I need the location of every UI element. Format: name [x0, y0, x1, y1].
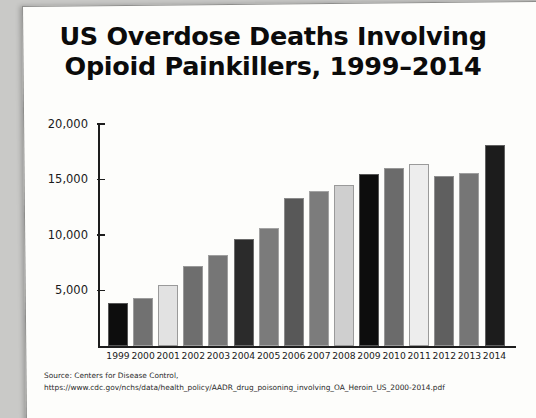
y-tick-20000 — [97, 123, 105, 125]
bar-1999 — [108, 303, 128, 346]
bar-2000 — [133, 298, 153, 346]
bar-2010 — [384, 168, 404, 346]
bar-2006 — [284, 198, 304, 346]
y-tick-label-20000: 20,000 — [10, 117, 88, 131]
bar-2011 — [409, 164, 429, 346]
plot-area — [98, 124, 516, 346]
bar-2014 — [485, 145, 505, 346]
bar-2013 — [459, 173, 479, 346]
y-axis-labels: 5,00010,00015,00020,000 — [10, 124, 88, 346]
x-tick-label-2014: 2014 — [478, 350, 512, 361]
chart-title-line-1: US Overdose Deaths Involving — [59, 21, 486, 51]
bar-2004 — [234, 239, 254, 346]
y-tick-15000 — [97, 179, 105, 181]
y-tick-5000 — [97, 290, 105, 292]
y-tick-label-15000: 15,000 — [10, 172, 88, 186]
bar-series — [108, 124, 512, 346]
y-tick-label-10000: 10,000 — [10, 228, 88, 242]
x-axis-labels: 1999200020012002200320042005200620072008… — [108, 350, 512, 364]
chart-title-line-2: Opioid Painkillers, 1999–2014 — [48, 52, 498, 82]
source-note: Source: Centers for Disease Control, htt… — [44, 370, 494, 394]
bar-2001 — [158, 285, 178, 346]
chart-title: US Overdose Deaths Involving Opioid Pain… — [48, 22, 498, 81]
bar-2005 — [259, 228, 279, 346]
source-url: https://www.cdc.gov/nchs/data/health_pol… — [44, 382, 494, 394]
bar-2007 — [309, 191, 329, 346]
bar-2008 — [334, 185, 354, 346]
bar-2002 — [183, 266, 203, 346]
x-axis-line — [98, 346, 516, 348]
source-label: Source: Centers for Disease Control, — [44, 371, 178, 380]
y-tick-10000 — [97, 234, 105, 236]
chart-figure: US Overdose Deaths Involving Opioid Pain… — [0, 0, 536, 418]
y-tick-label-5000: 5,000 — [10, 283, 88, 297]
bar-2003 — [208, 255, 228, 346]
bar-2009 — [359, 174, 379, 346]
bar-2012 — [434, 176, 454, 346]
